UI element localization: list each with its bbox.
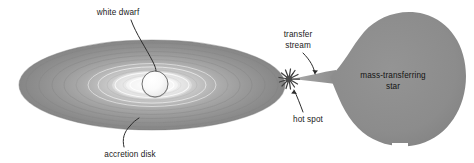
label-transfer-stream-line2: stream xyxy=(284,41,313,52)
label-transfer-stream: transfer stream xyxy=(284,30,313,51)
label-accretion-disk: accretion disk xyxy=(104,150,155,161)
white-dwarf xyxy=(142,71,168,97)
label-mass-transferring-star: mass-transferring star xyxy=(360,71,425,92)
label-mass-star-line1: mass-transferring xyxy=(360,71,425,82)
hot-spot-core xyxy=(286,76,292,82)
binary-star-diagram: white dwarf accretion disk transfer stre… xyxy=(0,0,474,163)
star-bottom-notch xyxy=(392,143,408,148)
arrowhead-transfer-stream xyxy=(312,70,318,74)
label-white-dwarf: white dwarf xyxy=(97,8,140,19)
label-transfer-stream-line1: transfer xyxy=(284,30,313,41)
label-mass-star-line2: star xyxy=(360,82,425,93)
label-hot-spot: hot spot xyxy=(293,115,323,126)
arrowhead-hot-spot xyxy=(291,90,297,94)
